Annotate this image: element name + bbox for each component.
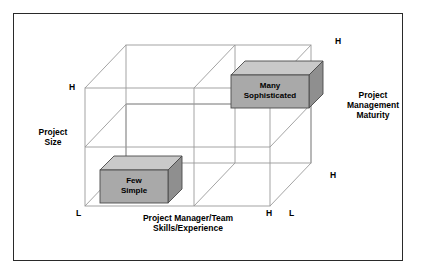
few-simple-label: Few Simple: [100, 176, 168, 195]
many-sophisticated-label: Many Sophisticated: [231, 81, 309, 100]
diagram-canvas: H H H L H L Project Size Project Manager…: [0, 0, 422, 280]
few-simple-label-line1: Few: [100, 176, 168, 186]
many-sophisticated-label-line1: Many: [231, 81, 309, 91]
few-simple-label-line2: Simple: [100, 186, 168, 196]
many-sophisticated-label-line2: Sophisticated: [231, 91, 309, 101]
data-blocks: [0, 0, 422, 280]
